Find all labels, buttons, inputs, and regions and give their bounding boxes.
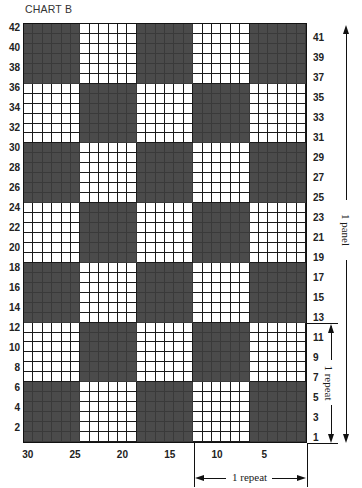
grid-cell xyxy=(203,263,212,273)
grid-cell xyxy=(268,24,277,34)
grid-cell xyxy=(231,432,240,442)
grid-cell xyxy=(174,213,183,223)
grid-cell xyxy=(80,213,89,223)
grid-cell xyxy=(287,253,296,263)
grid-cell xyxy=(90,303,99,313)
grid-cell xyxy=(212,173,221,183)
grid-cell xyxy=(24,213,33,223)
grid-cell xyxy=(278,352,287,362)
grid-cell xyxy=(109,233,118,243)
grid-cell xyxy=(118,173,127,183)
grid-cell xyxy=(146,163,155,173)
grid-cell xyxy=(90,333,99,343)
grid-cell xyxy=(287,233,296,243)
grid-cell xyxy=(240,64,249,74)
grid-cell xyxy=(287,392,296,402)
grid-cell xyxy=(184,44,193,54)
grid-cell xyxy=(240,84,249,94)
grid-cell xyxy=(268,273,277,283)
grid-cell xyxy=(127,412,136,422)
grid-cell xyxy=(99,412,108,422)
grid-cell xyxy=(99,233,108,243)
grid-cell xyxy=(156,323,165,333)
grid-cell xyxy=(212,114,221,124)
grid-cell xyxy=(146,263,155,273)
grid-cell xyxy=(118,223,127,233)
grid-cell xyxy=(118,313,127,323)
grid-cell xyxy=(287,303,296,313)
grid-cell xyxy=(184,64,193,74)
grid-cell xyxy=(52,303,61,313)
grid-cell xyxy=(137,213,146,223)
grid-cell xyxy=(287,64,296,74)
grid-cell xyxy=(156,163,165,173)
grid-cell xyxy=(297,114,306,124)
row-label: 34 xyxy=(4,102,20,113)
grid-cell xyxy=(297,183,306,193)
grid-cell xyxy=(278,243,287,253)
grid-cell xyxy=(156,74,165,84)
grid-cell xyxy=(80,163,89,173)
grid-cell xyxy=(221,114,230,124)
grid-cell xyxy=(184,173,193,183)
grid-cell xyxy=(90,173,99,183)
grid-cell xyxy=(33,24,42,34)
grid-cell xyxy=(203,193,212,203)
grid-cell xyxy=(99,133,108,143)
row-label: 31 xyxy=(313,132,324,143)
grid-cell xyxy=(165,342,174,352)
grid-cell xyxy=(165,183,174,193)
grid-cell xyxy=(90,323,99,333)
grid-cell xyxy=(278,114,287,124)
grid-cell xyxy=(268,143,277,153)
grid-cell xyxy=(240,352,249,362)
grid-cell xyxy=(174,193,183,203)
grid-cell xyxy=(43,153,52,163)
grid-cell xyxy=(156,283,165,293)
grid-cell xyxy=(71,372,80,382)
grid-cell xyxy=(146,273,155,283)
grid-cell xyxy=(231,143,240,153)
grid-cell xyxy=(146,114,155,124)
grid-cell xyxy=(118,183,127,193)
grid-cell xyxy=(62,273,71,283)
grid-cell xyxy=(297,213,306,223)
grid-cell xyxy=(90,233,99,243)
grid-cell xyxy=(137,233,146,243)
grid-cell xyxy=(250,143,259,153)
grid-cell xyxy=(297,34,306,44)
grid-cell xyxy=(90,422,99,432)
grid-cell xyxy=(127,104,136,114)
grid-cell xyxy=(118,203,127,213)
grid-cell xyxy=(268,163,277,173)
grid-cell xyxy=(62,74,71,84)
grid-cell xyxy=(33,342,42,352)
grid-cell xyxy=(156,273,165,283)
grid-cell xyxy=(165,153,174,163)
row-label: 20 xyxy=(4,242,20,253)
grid-cell xyxy=(127,342,136,352)
grid-cell xyxy=(90,44,99,54)
row-label: 13 xyxy=(313,312,324,323)
grid-cell xyxy=(250,263,259,273)
grid-cell xyxy=(62,64,71,74)
grid-cell xyxy=(127,114,136,124)
grid-cell xyxy=(174,382,183,392)
grid-cell xyxy=(212,54,221,64)
row-label: 40 xyxy=(4,42,20,53)
grid-cell xyxy=(99,124,108,134)
grid-cell xyxy=(71,412,80,422)
grid-cell xyxy=(71,54,80,64)
grid-cell xyxy=(278,64,287,74)
grid-cell xyxy=(174,153,183,163)
grid-cell xyxy=(24,54,33,64)
grid-cell xyxy=(174,203,183,213)
grid-cell xyxy=(146,243,155,253)
grid-cell xyxy=(99,183,108,193)
grid-cell xyxy=(71,352,80,362)
grid-cell xyxy=(33,263,42,273)
grid-cell xyxy=(184,402,193,412)
grid-cell xyxy=(212,263,221,273)
grid-cell xyxy=(137,293,146,303)
grid-cell xyxy=(174,333,183,343)
